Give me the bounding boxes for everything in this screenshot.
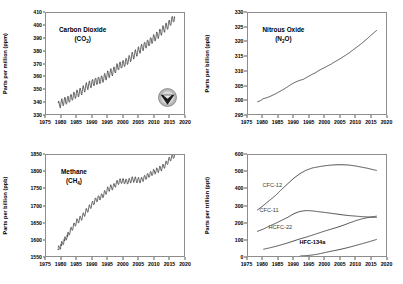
x-tick-mark (262, 257, 263, 260)
x-tick-mark (153, 257, 154, 260)
x-tick-label: 2005 (334, 261, 346, 267)
x-tick-label: 2015 (365, 261, 377, 267)
y-tick-mark (244, 85, 247, 86)
x-tick-mark (60, 115, 61, 118)
y-tick-label: 325 (235, 24, 244, 30)
y-tick-mark (244, 171, 247, 172)
y-tick-label: 305 (235, 83, 244, 89)
y-tick-label: 100 (235, 237, 244, 243)
x-tick-mark (45, 257, 46, 260)
x-tick-label: 1990 (287, 119, 299, 125)
y-tick-mark (244, 222, 247, 223)
y-tick-label: 380 (33, 48, 42, 54)
x-tick-label: 2005 (133, 119, 145, 125)
x-tick-label: 2010 (148, 261, 160, 267)
y-tick-label: 1750 (30, 185, 42, 191)
series-label-cfc12: CFC-12 (263, 182, 283, 188)
y-tick-label: 295 (235, 112, 244, 118)
x-tick-mark (138, 257, 139, 260)
x-tick-mark (91, 115, 92, 118)
x-tick-label: 1985 (70, 119, 82, 125)
series-label-hcfc22: HCFC-22 (269, 224, 293, 230)
y-tick-label: 1700 (30, 203, 42, 209)
x-tick-mark (185, 115, 186, 118)
x-tick-mark (293, 257, 294, 260)
x-tick-mark (76, 257, 77, 260)
y-tick-mark (244, 12, 247, 13)
y-tick-mark (43, 154, 46, 155)
y-tick-mark (43, 205, 46, 206)
x-tick-mark (246, 115, 247, 118)
y-tick-label: 330 (33, 112, 42, 118)
y-tick-label: 320 (235, 38, 244, 44)
x-tick-label: 1985 (272, 261, 284, 267)
x-tick-mark (185, 257, 186, 260)
x-tick-label: 1985 (70, 261, 82, 267)
x-tick-label: 2020 (179, 119, 191, 125)
gas-name-co2: Carbon Dioxide (59, 26, 106, 33)
y-tick-label: 1600 (30, 237, 42, 243)
x-tick-mark (262, 115, 263, 118)
x-tick-label: 1980 (256, 261, 268, 267)
y-tick-mark (43, 76, 46, 77)
x-tick-mark (153, 115, 154, 118)
data-point (67, 235, 69, 237)
series-label-hfc134a: HFC-134a (300, 239, 326, 245)
x-tick-label: 2005 (133, 261, 145, 267)
y-tick-mark (43, 171, 46, 172)
gas-title-ch4: Methane (CH4) (61, 168, 87, 188)
y-tick-mark (244, 188, 247, 189)
data-point (64, 239, 66, 241)
gas-title-co2: Carbon Dioxide (CO2) (59, 26, 106, 46)
x-tick-label: 1985 (272, 119, 284, 125)
x-tick-label: 2020 (381, 119, 393, 125)
y-tick-label: 370 (33, 61, 42, 67)
x-tick-mark (339, 257, 340, 260)
x-tick-mark (122, 115, 123, 118)
panel-halocarbons: Parts per trillion (ppt) CFC-12 CFC-11 H… (202, 142, 403, 284)
x-tick-label: 1980 (256, 119, 268, 125)
x-tick-label: 1995 (101, 119, 113, 125)
gas-formula-co2: (CO2) (74, 35, 90, 42)
y-tick-label: 410 (33, 9, 42, 15)
x-tick-mark (169, 115, 170, 118)
x-tick-label: 1975 (241, 119, 253, 125)
x-tick-mark (339, 115, 340, 118)
x-tick-mark (324, 257, 325, 260)
gas-formula-n2o: (N2O) (275, 35, 291, 42)
panel-ch4: Parts per billion (ppb) Methane (CH4) 15… (0, 142, 201, 284)
y-tick-mark (43, 63, 46, 64)
x-tick-label: 2015 (365, 119, 377, 125)
x-tick-label: 1995 (303, 119, 315, 125)
x-tick-mark (370, 257, 371, 260)
x-tick-mark (122, 257, 123, 260)
x-tick-label: 1995 (303, 261, 315, 267)
y-tick-mark (244, 26, 247, 27)
plot-area-ch4: Methane (CH4) 15501600165017001750180018… (45, 154, 185, 257)
x-tick-mark (277, 115, 278, 118)
x-tick-label: 1980 (55, 119, 67, 125)
y-tick-mark (244, 70, 247, 71)
x-tick-label: 2000 (117, 119, 129, 125)
x-tick-label: 2020 (179, 261, 191, 267)
x-tick-label: 1975 (241, 261, 253, 267)
y-tick-label: 600 (235, 151, 244, 157)
data-point (60, 244, 62, 246)
y-tick-label: 300 (235, 203, 244, 209)
x-tick-label: 2020 (381, 261, 393, 267)
x-tick-mark (293, 115, 294, 118)
y-tick-mark (43, 102, 46, 103)
x-tick-label: 1990 (86, 119, 98, 125)
gas-formula-ch4: (CH4) (66, 177, 82, 184)
x-tick-label: 2010 (148, 119, 160, 125)
y-tick-mark (244, 56, 247, 57)
x-tick-mark (107, 115, 108, 118)
x-tick-label: 1995 (101, 261, 113, 267)
x-tick-mark (76, 115, 77, 118)
x-tick-mark (308, 115, 309, 118)
x-tick-mark (107, 257, 108, 260)
y-tick-mark (244, 100, 247, 101)
panel-co2: Parts per million (ppm) Carbon Dioxide (… (0, 0, 201, 142)
x-tick-label: 1990 (287, 261, 299, 267)
y-tick-mark (244, 41, 247, 42)
